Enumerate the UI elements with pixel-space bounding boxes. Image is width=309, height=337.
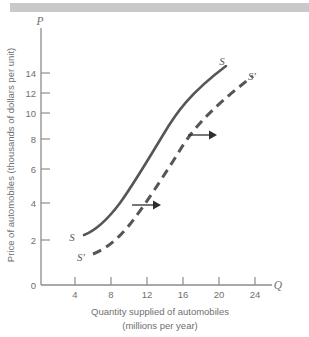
x-axis-title-line1: Quantity supplied of automobiles [91,306,229,317]
y-axis-title: Price of automobiles (thousands of dolla… [5,48,16,262]
supply-shift-chart-figure: 14 12 10 8 6 4 2 0 4 8 12 16 20 24 P Q S… [0,0,309,337]
chart-plot-area: 14 12 10 8 6 4 2 0 4 8 12 16 20 24 P Q S… [0,0,309,337]
y-tick-label-0: 0 [31,280,36,291]
y-axis-symbol: P [35,15,43,27]
y-tick-label-6: 6 [31,164,36,175]
shift-arrow-lower-head [153,201,161,210]
x-tick-label-12: 12 [142,289,153,300]
shift-arrow-upper [188,131,217,140]
curve-label-s-prime-bottom: S′ [77,251,86,263]
x-axis-ticks [75,277,255,285]
x-axis-symbol: Q [274,279,283,291]
x-axis-title-line2: (millions per year) [122,320,198,331]
y-tick-label-14: 14 [25,68,36,79]
shift-arrow-upper-head [209,131,217,140]
supply-curve-s-prime [93,76,253,254]
curve-label-s-bottom: S [69,231,75,243]
curve-label-s-prime-top: S′ [248,70,257,82]
y-axis-ticks [41,73,50,240]
y-tick-label-12: 12 [25,88,36,99]
curve-label-s-top: S [219,55,225,67]
x-tick-label-4: 4 [72,289,77,300]
x-tick-label-20: 20 [214,289,225,300]
x-tick-label-24: 24 [250,289,261,300]
supply-curve-s [84,66,226,235]
x-tick-label-16: 16 [178,289,189,300]
y-tick-label-2: 2 [31,235,36,246]
x-tick-label-8: 8 [108,289,113,300]
y-tick-label-10: 10 [25,108,36,119]
y-tick-label-4: 4 [31,198,36,209]
y-tick-label-8: 8 [31,134,36,145]
